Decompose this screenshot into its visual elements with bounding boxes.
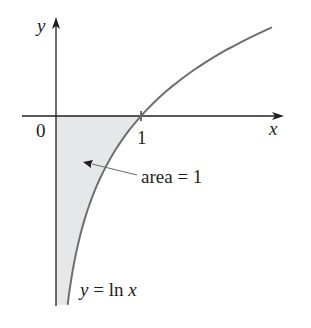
ln-area-diagram: y x 0 1 area = 1 y = ln x: [0, 0, 311, 328]
curve-label-y: y: [78, 279, 89, 300]
area-annotation: area = 1: [141, 166, 202, 187]
y-axis-label: y: [35, 15, 46, 36]
curve-label-var: x: [127, 279, 137, 300]
curve-label-eq: =: [88, 279, 108, 300]
origin-label: 0: [36, 120, 46, 141]
curve-label-fn: ln: [109, 279, 124, 300]
x-axis-label: x: [268, 118, 278, 139]
tick-label-1: 1: [137, 127, 147, 148]
shaded-area-region: [56, 116, 141, 305]
curve-label: y = ln x: [78, 279, 137, 300]
